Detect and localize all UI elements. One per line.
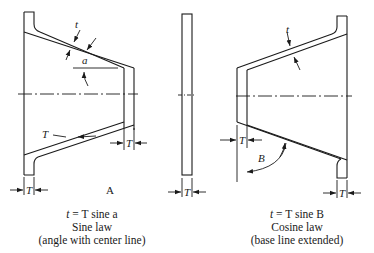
left-a-label: a (82, 54, 88, 66)
left-angle-a (73, 68, 118, 86)
flat-plate (182, 14, 192, 175)
left-T-slant-arrow (53, 135, 96, 137)
left-T-right-label: T (126, 137, 133, 149)
left-t-label: t (75, 18, 79, 30)
right-t-label: t (286, 23, 290, 35)
left-T-slant-label: T (42, 128, 49, 140)
right-equation: t = T sine B (212, 208, 374, 221)
left-equation: t = T sine a (7, 208, 177, 221)
right-law: Cosine law (212, 221, 374, 234)
right-caption: t = T sine B Cosine law (base line exten… (212, 208, 374, 247)
figure-letter-A: A (106, 184, 114, 196)
left-note: (angle with center line) (7, 234, 177, 247)
right-angle-B-arc (247, 143, 286, 172)
right-cone (237, 16, 347, 178)
right-T-left-label: T (239, 134, 246, 146)
right-T-bottom-label: T (339, 187, 346, 199)
left-caption: t = T sine a Sine law (angle with center… (7, 208, 177, 247)
plate-T-label: T (184, 186, 191, 198)
left-cone (24, 12, 134, 175)
left-law: Sine law (7, 221, 177, 234)
left-T-bottom-label: T (26, 184, 33, 196)
right-B-label: B (258, 152, 265, 164)
right-note: (base line extended) (212, 234, 374, 247)
right-t-dimension (287, 32, 300, 70)
